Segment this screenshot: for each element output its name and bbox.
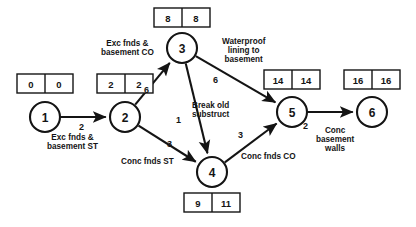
activity-label-3-to-5: Waterproof lining to basement	[222, 37, 265, 65]
activity-label-4-to-5: Conc fnds CO	[241, 152, 296, 161]
activity-label-1-to-2: Exc fnds & basement ST	[47, 133, 98, 151]
node-5-label: 5	[289, 106, 296, 120]
latest-event-time-node-2: 2	[136, 79, 141, 90]
activity-label-2-to-4: Conc fnds ST	[121, 157, 174, 166]
latest-event-time-node-5: 14	[301, 75, 312, 86]
earliest-event-time-node-3: 8	[165, 13, 170, 24]
earliest-event-time-node-4: 9	[195, 198, 200, 209]
duration-3-to-5: 6	[213, 76, 218, 85]
earliest-event-time-node-5: 14	[273, 75, 284, 86]
duration-2-to-3: 6	[144, 86, 149, 95]
earliest-event-time-node-6: 16	[353, 75, 364, 86]
duration-5-to-6: 2	[303, 122, 308, 131]
latest-event-time-node-3: 8	[193, 13, 198, 24]
latest-event-time-node-1: 0	[56, 79, 61, 90]
duration-3-to-4: 1	[176, 116, 181, 125]
activity-label-5-to-6: Conc basement walls	[316, 126, 354, 154]
network-diagram-canvas: 123456 00228891114141616 2Exc fnds & bas…	[0, 0, 416, 227]
earliest-event-time-node-1: 0	[28, 79, 33, 90]
latest-event-time-node-6: 16	[381, 75, 392, 86]
latest-event-time-node-4: 11	[221, 198, 232, 209]
activity-label-3-to-4: Break old substruct	[192, 101, 229, 119]
earliest-event-time-node-2: 2	[108, 79, 113, 90]
node-4-label: 4	[209, 166, 216, 180]
node-1-label: 1	[42, 111, 49, 125]
duration-2-to-4: 3	[167, 140, 172, 149]
duration-4-to-5: 3	[238, 131, 243, 140]
node-6-label: 6	[369, 106, 376, 120]
activity-label-2-to-3: Exc fnds & basement CO	[101, 39, 154, 57]
node-2-label: 2	[122, 111, 129, 125]
node-3-label: 3	[179, 42, 186, 56]
duration-1-to-2: 2	[79, 123, 84, 132]
